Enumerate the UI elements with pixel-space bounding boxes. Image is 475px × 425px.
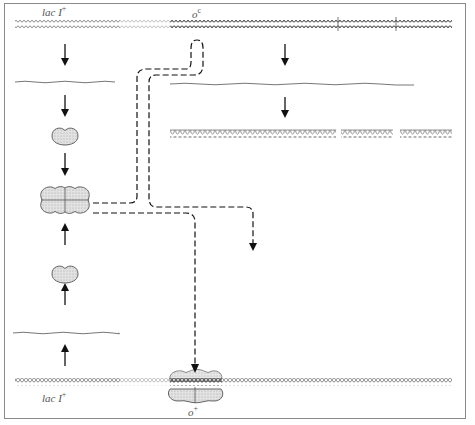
dashed-arrowheads bbox=[191, 243, 257, 373]
top-operator-label: oc bbox=[192, 6, 201, 20]
translated-proteins bbox=[170, 130, 452, 138]
protein-transacetylase bbox=[400, 130, 452, 138]
bottom-lacI-label: lac I+ bbox=[42, 390, 66, 404]
top-gene-text: lac I bbox=[42, 6, 62, 18]
repressor-dashed-paths bbox=[93, 40, 253, 365]
top-operator-sup: c bbox=[198, 6, 202, 15]
protein-permease bbox=[341, 130, 393, 138]
top-lacI-label: lac I+ bbox=[42, 4, 66, 18]
lacI-mrna-bottom bbox=[13, 332, 120, 334]
repressor-tetramer bbox=[41, 187, 90, 214]
bottom-gene-text: lac I bbox=[42, 392, 62, 404]
protein-beta-galactosidase bbox=[170, 130, 336, 138]
bound-repressor bbox=[168, 370, 222, 404]
top-gene-sup: + bbox=[62, 4, 67, 13]
lacI-mrna-top bbox=[15, 81, 115, 83]
repressor-monomer-top bbox=[52, 128, 78, 145]
bottom-operator-label: o+ bbox=[188, 404, 198, 418]
bottom-operator-sup: + bbox=[194, 404, 199, 413]
lac-operon-mrna bbox=[170, 83, 414, 85]
repressor-monomer-bottom bbox=[52, 266, 78, 283]
lac-operon-diagram bbox=[0, 0, 475, 425]
top-dna bbox=[15, 17, 452, 31]
bottom-gene-sup: + bbox=[62, 390, 67, 399]
bottom-dna bbox=[15, 378, 452, 386]
